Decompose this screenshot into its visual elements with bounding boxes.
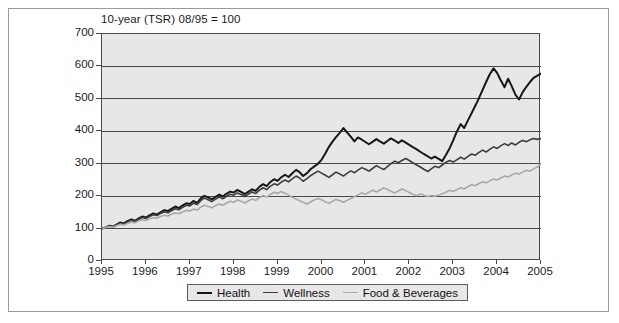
x-tick-label: 1997: [166, 265, 212, 277]
x-tick-label: 1999: [254, 265, 300, 277]
series-line-health: [102, 68, 541, 228]
legend-entry: Food & Beverages: [343, 287, 458, 299]
x-tick-label: 2001: [341, 265, 387, 277]
x-tick-label: 2000: [298, 265, 344, 277]
chart-title: 10-year (TSR) 08/95 = 100: [101, 13, 241, 25]
x-tick-label: 1995: [78, 265, 124, 277]
legend-entry: Wellness: [263, 287, 329, 299]
x-tick-label: 2003: [429, 265, 475, 277]
legend-swatch-icon: [343, 292, 358, 293]
y-tick-label: 0: [56, 253, 94, 265]
x-tick-label: 1996: [122, 265, 168, 277]
x-tick-label: 1998: [210, 265, 256, 277]
plot-svg: [102, 34, 541, 261]
legend-label: Wellness: [283, 287, 329, 299]
x-tick-label: 2004: [473, 265, 519, 277]
legend-swatch-icon: [197, 292, 212, 294]
legend-label: Health: [217, 287, 250, 299]
y-tick-label: 500: [56, 91, 94, 103]
plot-area: [101, 33, 540, 260]
legend-entry: Health: [197, 287, 250, 299]
y-tick-label: 200: [56, 188, 94, 200]
chart-figure: 10-year (TSR) 08/95 = 100 01002003004005…: [0, 0, 619, 323]
x-tick-label: 2005: [517, 265, 563, 277]
legend-swatch-icon: [263, 292, 278, 293]
y-tick-label: 100: [56, 221, 94, 233]
y-tick-label: 300: [56, 156, 94, 168]
y-tick-label: 600: [56, 58, 94, 70]
y-tick-label: 700: [56, 26, 94, 38]
chart-legend: HealthWellnessFood & Beverages: [187, 284, 468, 301]
y-tick-label: 400: [56, 123, 94, 135]
x-tick-label: 2002: [385, 265, 431, 277]
legend-label: Food & Beverages: [363, 287, 458, 299]
